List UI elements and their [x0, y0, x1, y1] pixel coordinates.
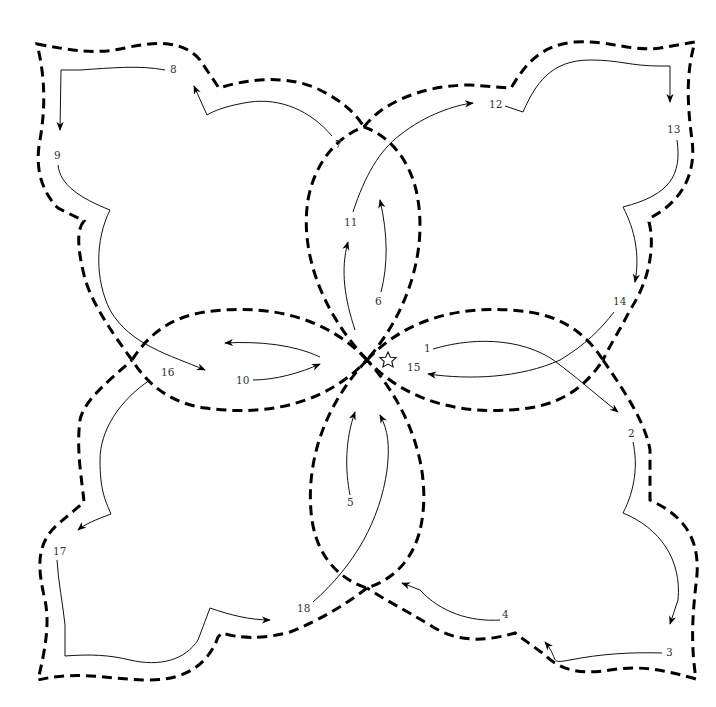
arrow-4-to-5 — [402, 583, 500, 620]
step-label-17: 17 — [53, 545, 66, 557]
step-label-7: 7 — [335, 138, 342, 150]
arrow-11-to-12 — [353, 103, 473, 212]
arrow-6-up — [380, 200, 386, 292]
arrow-14-to-15 — [428, 312, 614, 377]
step-label-2: 2 — [628, 427, 635, 439]
petals — [132, 127, 603, 588]
step-label-16: 16 — [161, 366, 175, 378]
stitching-diagram: 1 2 3 4 5 6 7 8 9 10 11 12 13 14 15 16 1… — [0, 0, 716, 707]
arrow-7-to-8 — [194, 86, 332, 136]
arrow-12-to-13 — [505, 60, 670, 112]
step-label-18: 18 — [297, 602, 310, 614]
arrow-6-left — [344, 242, 355, 330]
arrow-5-up — [347, 412, 355, 495]
arrow-center-to-left — [225, 343, 320, 357]
step-label-14: 14 — [613, 295, 627, 307]
petal-top — [306, 127, 420, 360]
petal-right — [367, 309, 603, 410]
petal-left — [132, 309, 367, 410]
arrow-3-to-4 — [545, 642, 662, 661]
step-label-13: 13 — [667, 123, 680, 135]
step-label-4: 4 — [502, 608, 509, 620]
step-label-10: 10 — [236, 374, 249, 386]
arrow-17-to-18 — [57, 560, 270, 663]
step-label-5: 5 — [347, 496, 354, 508]
step-label-1: 1 — [424, 342, 431, 354]
step-label-8: 8 — [170, 63, 177, 75]
arrow-10-to-center — [253, 364, 320, 380]
step-label-6: 6 — [375, 295, 382, 307]
step-label-3: 3 — [666, 646, 673, 658]
step-label-11: 11 — [344, 216, 357, 228]
arrow-8-to-9 — [60, 67, 165, 130]
step-label-12: 12 — [489, 98, 502, 110]
step-label-15: 15 — [407, 361, 420, 373]
step-label-9: 9 — [54, 149, 61, 161]
star-icon — [380, 352, 396, 367]
petal-bottom — [310, 360, 423, 588]
arrow-18-up — [313, 415, 388, 602]
arrow-9-to-10 — [58, 165, 205, 370]
